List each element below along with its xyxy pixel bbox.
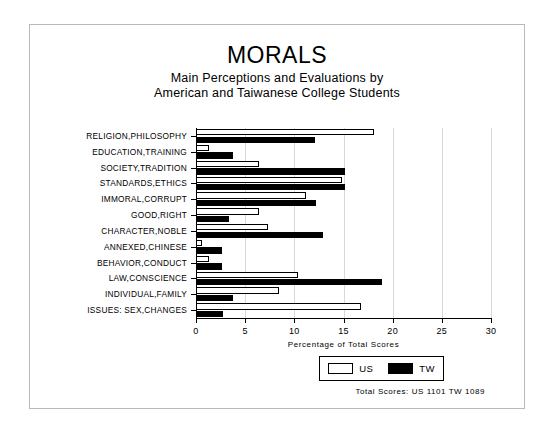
- legend-swatch-us: [328, 363, 353, 374]
- category-label: LAW,CONSCIENCE: [109, 273, 187, 283]
- category-label: EDUCATION,TRAINING: [92, 147, 187, 157]
- bar-row: GOOD,RIGHT: [196, 207, 491, 223]
- x-tick: [491, 318, 492, 323]
- bar-us: [196, 129, 374, 135]
- x-tick-label: 30: [486, 326, 497, 336]
- gridline: [491, 128, 492, 318]
- bar-row: INDIVIDUAL,FAMILY: [196, 286, 491, 302]
- category-label: IMMORAL,CORRUPT: [101, 194, 187, 204]
- bar-us: [196, 145, 209, 151]
- x-tick-label: 5: [243, 326, 248, 336]
- bar-row: IMMORAL,CORRUPT: [196, 191, 491, 207]
- category-label: CHARACTER,NOBLE: [101, 226, 187, 236]
- bar-tw: [196, 247, 222, 253]
- category-label: ISSUES: SEX,CHANGES: [87, 305, 187, 315]
- bar-tw: [196, 184, 345, 190]
- category-label: SOCIETY,TRADITION: [100, 163, 187, 173]
- bar-tw: [196, 295, 233, 301]
- legend-label-tw: TW: [419, 363, 435, 374]
- x-tick-label: 0: [193, 326, 198, 336]
- category-label: BEHAVIOR,CONDUCT: [97, 258, 187, 268]
- x-tick: [294, 318, 295, 323]
- bar-us: [196, 287, 279, 293]
- category-label: INDIVIDUAL,FAMILY: [105, 289, 187, 299]
- x-tick: [196, 318, 197, 323]
- bar-us: [196, 192, 306, 198]
- bar-row: STANDARDS,ETHICS: [196, 176, 491, 192]
- legend-entry-us: US: [328, 363, 373, 374]
- legend-label-us: US: [359, 363, 373, 374]
- bar-us: [196, 256, 209, 262]
- bar-us: [196, 161, 259, 167]
- bar-us: [196, 208, 259, 214]
- category-label: STANDARDS,ETHICS: [100, 178, 187, 188]
- bar-tw: [196, 168, 345, 174]
- bar-row: ANNEXED,CHINESE: [196, 239, 491, 255]
- bar-row: EDUCATION,TRAINING: [196, 144, 491, 160]
- bar-tw: [196, 152, 233, 158]
- bar-row: SOCIETY,TRADITION: [196, 160, 491, 176]
- chart-legend: US TW: [319, 356, 444, 381]
- bar-row: LAW,CONSCIENCE: [196, 271, 491, 287]
- x-tick: [245, 318, 246, 323]
- bar-us: [196, 303, 361, 309]
- chart-subtitle-line-1: Main Perceptions and Evaluations by: [30, 71, 524, 86]
- chart-figure: MORALS Main Perceptions and Evaluations …: [29, 24, 525, 409]
- x-tick-label: 25: [437, 326, 448, 336]
- bar-tw: [196, 311, 223, 317]
- total-scores-note: Total Scores: US 1101 TW 1089: [30, 387, 485, 396]
- bar-us: [196, 224, 268, 230]
- chart-title: MORALS: [30, 42, 524, 68]
- x-tick-label: 15: [338, 326, 349, 336]
- bar-row: ISSUES: SEX,CHANGES: [196, 302, 491, 318]
- x-tick: [393, 318, 394, 323]
- x-axis-title: Percentage of Total Scores: [196, 340, 491, 349]
- title-block: MORALS Main Perceptions and Evaluations …: [30, 42, 524, 101]
- bar-tw: [196, 200, 316, 206]
- bar-tw: [196, 232, 323, 238]
- x-tick-label: 20: [387, 326, 398, 336]
- x-tick: [344, 318, 345, 323]
- bar-us: [196, 240, 202, 246]
- category-label: GOOD,RIGHT: [131, 210, 187, 220]
- chart-subtitle-line-2: American and Taiwanese College Students: [30, 86, 524, 101]
- plot-area: RELIGION,PHILOSOPHYEDUCATION,TRAININGSOC…: [196, 128, 491, 318]
- category-label: ANNEXED,CHINESE: [104, 242, 187, 252]
- legend-entry-tw: TW: [388, 363, 435, 374]
- bar-row: BEHAVIOR,CONDUCT: [196, 255, 491, 271]
- x-tick: [442, 318, 443, 323]
- bar-tw: [196, 137, 315, 143]
- bar-us: [196, 177, 342, 183]
- category-label: RELIGION,PHILOSOPHY: [86, 131, 187, 141]
- bar-tw: [196, 279, 382, 285]
- legend-swatch-tw: [388, 363, 413, 374]
- bar-row: RELIGION,PHILOSOPHY: [196, 128, 491, 144]
- bar-tw: [196, 216, 229, 222]
- bar-tw: [196, 263, 222, 269]
- bar-us: [196, 272, 298, 278]
- bar-row: CHARACTER,NOBLE: [196, 223, 491, 239]
- x-tick-label: 10: [289, 326, 300, 336]
